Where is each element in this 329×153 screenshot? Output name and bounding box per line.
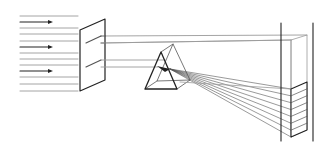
- spectrum-ray: [170, 69, 291, 110]
- spectrum-ray: [170, 69, 291, 123]
- arrow-head-icon: [48, 69, 53, 73]
- slit-screen: [80, 19, 105, 91]
- prism-edge: [177, 80, 190, 89]
- screen-box-top: [101, 40, 291, 43]
- arrow-head-icon: [48, 45, 53, 49]
- beam-upper: [101, 35, 307, 36]
- screen-box-mid: [180, 82, 291, 89]
- spectrum-ray: [170, 69, 291, 130]
- prism-diagram: [0, 0, 329, 153]
- diagram-canvas: [0, 0, 329, 153]
- arrow-head-icon: [48, 20, 53, 24]
